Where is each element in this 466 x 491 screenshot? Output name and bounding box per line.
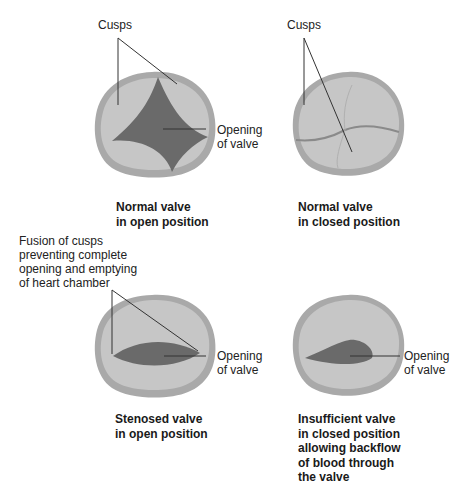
caption-stenosed-open: Stenosed valve in open position: [115, 412, 208, 441]
normal-open-valve: [95, 72, 216, 178]
caption-insufficient-closed: Insufficient valve in closed position al…: [298, 412, 401, 485]
opening-label-1: Opening of valve: [217, 123, 262, 151]
fusion-label: Fusion of cusps preventing complete open…: [19, 234, 137, 290]
stenosed-open-valve: [95, 295, 216, 398]
cusps-label-2: Cusps: [287, 18, 321, 32]
caption-normal-open: Normal valve in open position: [116, 200, 209, 229]
insufficient-closed-valve: [293, 295, 404, 396]
opening-label-3: Opening of valve: [217, 349, 262, 377]
cusps-label-1: Cusps: [98, 18, 132, 32]
caption-normal-closed: Normal valve in closed position: [298, 200, 400, 229]
normal-closed-valve: [293, 72, 404, 176]
opening-label-4: Opening of valve: [404, 349, 449, 377]
